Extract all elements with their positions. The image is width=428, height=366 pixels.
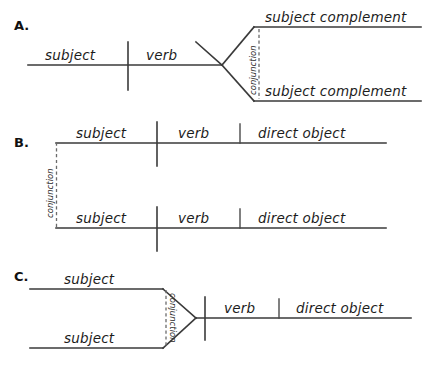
section-b-conjunction-label: conjunction bbox=[45, 168, 55, 218]
section-c-verb-label: verb bbox=[224, 300, 255, 316]
section-a-complement-top-label: subject complement bbox=[265, 9, 407, 25]
sentence-diagram-figure: A. subject verb subject complement subje… bbox=[0, 0, 428, 366]
section-c-subject-bottom-label: subject bbox=[64, 330, 115, 346]
section-a-complement-slant bbox=[196, 42, 222, 65]
section-c-group: C. subject subject verb direct object co… bbox=[14, 269, 411, 348]
section-b-top-direct-object-label: direct object bbox=[258, 125, 346, 141]
section-a-conjunction-label: conjunction bbox=[248, 45, 258, 95]
section-c-converge-upper bbox=[163, 289, 196, 318]
section-b-top-subject-label: subject bbox=[76, 125, 127, 141]
section-c-conjunction-label: conjunction bbox=[168, 293, 178, 343]
section-a-complement-bottom-label: subject complement bbox=[265, 83, 407, 99]
section-b-group: B. subject verb direct object subject ve… bbox=[14, 122, 386, 251]
section-a-verb-label: verb bbox=[146, 47, 177, 63]
section-a-subject-label: subject bbox=[45, 47, 96, 63]
section-c-direct-object-label: direct object bbox=[296, 300, 384, 316]
section-a-group: A. subject verb subject complement subje… bbox=[14, 9, 421, 101]
section-b-bottom-verb-label: verb bbox=[178, 210, 209, 226]
section-b-top-verb-label: verb bbox=[178, 125, 209, 141]
section-b-conjunction-dashed-bracket bbox=[56, 143, 57, 228]
section-c-subject-top-label: subject bbox=[64, 271, 115, 287]
section-b-bottom-direct-object-label: direct object bbox=[258, 210, 346, 226]
section-c-converge-lower bbox=[163, 318, 196, 348]
section-b-letter: B. bbox=[14, 135, 29, 150]
section-c-letter: C. bbox=[14, 269, 28, 284]
section-b-bottom-subject-label: subject bbox=[76, 210, 127, 226]
section-a-letter: A. bbox=[14, 18, 29, 33]
